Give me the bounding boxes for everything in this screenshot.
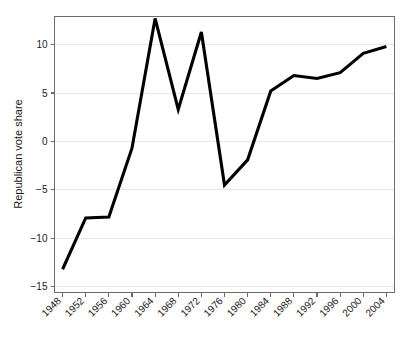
republican-vote-share-line-chart: 1050−5−10−15 194819521956196019641968197… [0, 0, 412, 341]
chart-figure: 1050−5−10−15 194819521956196019641968197… [0, 0, 412, 341]
y-tick-label--5: −5 [36, 184, 48, 195]
figure-background [0, 0, 412, 341]
y-axis-title: Republican vote share [12, 99, 24, 208]
y-tick-label--15: −15 [31, 281, 48, 292]
y-tick-label-10: 10 [36, 39, 48, 50]
y-tick-label-5: 5 [42, 88, 48, 99]
y-tick-label--10: −10 [31, 233, 48, 244]
y-tick-label-0: 0 [42, 136, 48, 147]
